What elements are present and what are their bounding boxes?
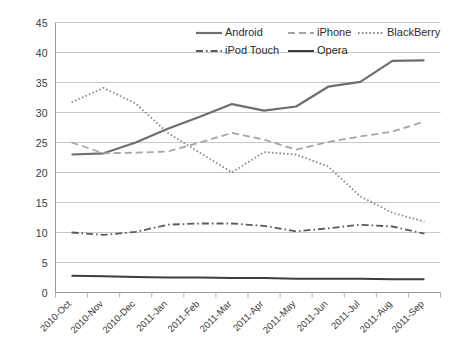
y-axis-tick-label: 5: [42, 257, 48, 269]
y-axis-tick-label: 45: [36, 17, 48, 29]
legend-label-ipod-touch: iPod Touch: [225, 44, 279, 56]
x-axis-tick-label: 2011-Jun: [294, 298, 329, 333]
y-axis-tick-label: 10: [36, 227, 48, 239]
y-axis-tick-label: 25: [36, 137, 48, 149]
y-axis-tick-label: 20: [36, 167, 48, 179]
x-axis-tick-marks: [56, 293, 441, 298]
x-axis-tick-label: 2011-Sep: [389, 298, 425, 334]
series-line-android: [72, 60, 425, 154]
series-line-iphone: [72, 122, 425, 154]
series-line-ipod-touch: [72, 224, 425, 235]
legend-label-android: Android: [225, 26, 263, 38]
y-axis-tick-labels: 051015202530354045: [36, 17, 48, 299]
y-axis-tick-label: 15: [36, 197, 48, 209]
x-axis-tick-label: 2011-Mar: [197, 298, 233, 334]
legend-label-blackberry: BlackBerry: [387, 26, 441, 38]
x-axis-tick-label: 2011-May: [260, 298, 297, 335]
line-chart: 051015202530354045 2010-Oct2010-Nov2010-…: [0, 0, 461, 350]
x-axis-tick-label: 2010-Dec: [100, 298, 137, 335]
y-axis-tick-label: 30: [36, 107, 48, 119]
chart-legend: AndroidiPhoneBlackBerryiPod TouchOpera: [196, 26, 441, 56]
series-line-opera: [72, 276, 425, 280]
legend-label-opera: Opera: [317, 44, 348, 56]
x-axis-tick-label: 2011-Jan: [134, 298, 169, 333]
x-axis-tick-label: 2011-Aug: [357, 298, 393, 334]
y-axis-tick-label: 35: [36, 77, 48, 89]
x-axis-tick-label: 2011-Feb: [165, 298, 201, 334]
data-series: [72, 60, 425, 279]
y-axis-tick-label: 40: [36, 47, 48, 59]
legend-label-iphone: iPhone: [317, 26, 351, 38]
chart-canvas: 051015202530354045 2010-Oct2010-Nov2010-…: [0, 0, 461, 350]
x-axis-tick-labels: 2010-Oct2010-Nov2010-Dec2011-Jan2011-Feb…: [38, 298, 426, 335]
gridlines: [56, 23, 441, 293]
x-axis-tick-label: 2010-Nov: [68, 298, 105, 335]
y-axis-tick-label: 0: [42, 287, 48, 299]
